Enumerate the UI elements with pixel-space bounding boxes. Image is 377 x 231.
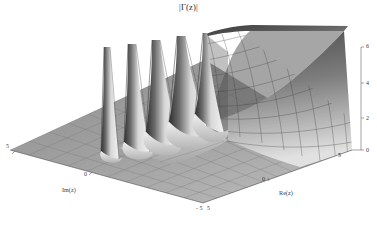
im-axis-tick-5: 5 [6,143,9,149]
plot-title: |Γ(z)| [0,2,377,12]
z-axis-tick-0: 0 [366,147,369,153]
re-axis-tick-5: 5 [338,152,341,158]
im-axis-tick-0: 0 [84,171,87,177]
re-axis-tick-0: 0 [262,176,265,182]
gamma-surface-plot [0,0,377,231]
figure-container: |Γ(z)| Im(z) Re(z) 5 0 -5 5 0 5 0 2 4 6 [0,0,377,231]
real-axis-label: Re(z) [279,189,293,196]
axis-corner-tick: -5 5 [196,205,212,211]
z-axis-tick-4: 4 [366,80,369,86]
z-axis-tick-6: 6 [366,43,369,49]
z-axis-tick-2: 2 [366,115,369,121]
imaginary-axis-label: Im(z) [62,186,76,193]
